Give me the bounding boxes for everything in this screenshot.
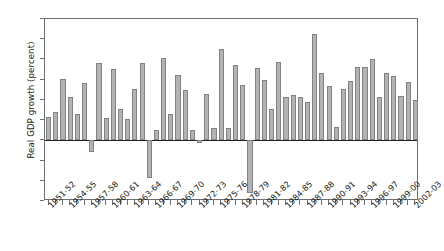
bar (125, 119, 130, 140)
bar (132, 89, 137, 141)
bar (140, 63, 145, 140)
bar (327, 86, 332, 141)
bar (262, 80, 267, 141)
bar (298, 97, 303, 140)
y-tick-mark (40, 79, 45, 80)
bar (391, 76, 396, 141)
bar (104, 118, 109, 140)
bar (406, 82, 411, 141)
bar (312, 34, 317, 140)
bar (355, 67, 360, 141)
y-tick-mark (40, 18, 45, 19)
bar (175, 75, 180, 141)
bar (168, 114, 173, 140)
bar (53, 112, 58, 140)
y-tick-mark (40, 139, 45, 140)
bar (154, 130, 159, 140)
bar (204, 94, 209, 141)
bar (233, 65, 238, 141)
bar (341, 89, 346, 141)
bar (384, 73, 389, 141)
bar (319, 73, 324, 141)
bar (197, 140, 202, 143)
bar (219, 49, 224, 140)
bar (89, 140, 94, 152)
bar (377, 97, 382, 140)
y-tick-mark (40, 180, 45, 181)
bar (370, 59, 375, 140)
y-tick-mark (40, 99, 45, 100)
bar-series (45, 19, 417, 199)
bar (46, 117, 51, 140)
x-axis-labels: 1951-521954-551957-581960-611963-641966-… (44, 203, 418, 251)
bar (291, 95, 296, 141)
bar (413, 100, 418, 140)
y-tick-mark (40, 58, 45, 59)
y-tick-mark (40, 38, 45, 39)
bar (82, 83, 87, 141)
bar (255, 68, 260, 141)
plot-area (44, 18, 418, 200)
bar (60, 79, 65, 141)
bar (362, 67, 367, 141)
bar (211, 128, 216, 140)
y-tick-mark (40, 119, 45, 120)
bar (118, 109, 123, 140)
bar (111, 69, 116, 141)
bar (276, 62, 281, 140)
bar (161, 58, 166, 140)
bar (96, 63, 101, 140)
bar (226, 128, 231, 140)
bar (240, 85, 245, 141)
y-tick-mark (40, 160, 45, 161)
bar (283, 97, 288, 140)
bar (190, 130, 195, 140)
bar (147, 140, 152, 177)
bar (305, 102, 310, 140)
bar (269, 109, 274, 140)
bar (75, 114, 80, 140)
bar (68, 97, 73, 140)
bar (334, 127, 339, 140)
y-axis-title: Real GDP growth (percent) (26, 15, 36, 185)
bar (348, 81, 353, 141)
bar (183, 90, 188, 141)
bar (398, 96, 403, 140)
